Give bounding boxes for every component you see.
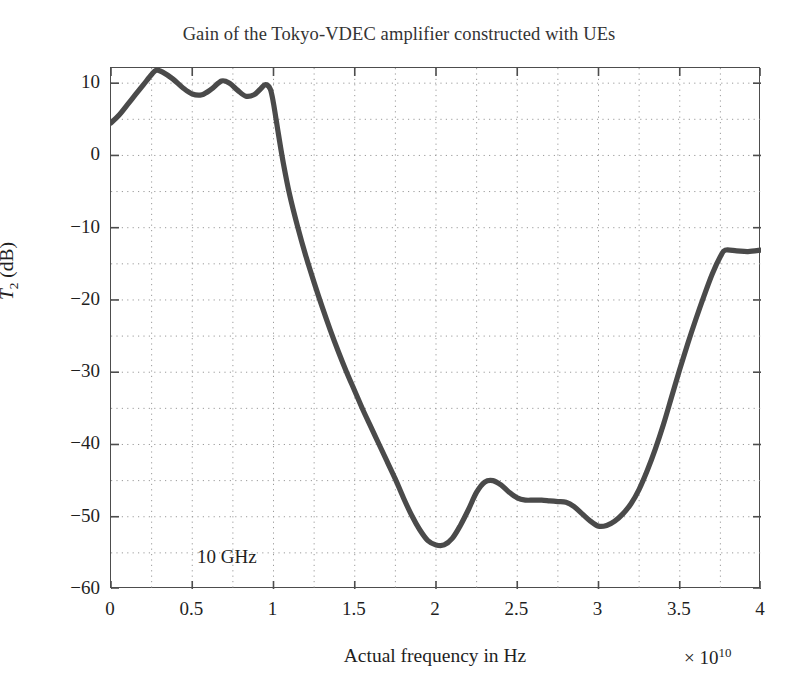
y-axis-label-unit: (dB) — [0, 242, 17, 283]
y-tick-label: 10 — [32, 71, 100, 93]
x-tick-label: 1.5 — [342, 598, 366, 620]
y-tick-label: −30 — [32, 360, 100, 382]
y-tick-label: −60 — [32, 577, 100, 599]
x-axis-exponent: × 1010 — [684, 645, 731, 669]
plot-area — [110, 67, 760, 588]
annotation-10ghz: 10 GHz — [197, 546, 257, 568]
y-tick-label: −50 — [32, 505, 100, 527]
x-tick-label: 2 — [430, 598, 440, 620]
data-series-line — [111, 70, 761, 546]
x-tick-label: 3.5 — [667, 598, 691, 620]
x-tick-label: 0 — [105, 598, 115, 620]
y-axis-label: T2 (dB) — [0, 242, 22, 300]
y-tick-label: −20 — [32, 288, 100, 310]
y-tick-label: −40 — [32, 432, 100, 454]
x-axis-exponent-prefix: × 10 — [684, 647, 718, 668]
y-tick-label: 0 — [32, 143, 100, 165]
x-tick-label: 1 — [268, 598, 278, 620]
x-tick-label: 2.5 — [504, 598, 528, 620]
x-tick-label: 3 — [593, 598, 603, 620]
chart-title: Gain of the Tokyo-VDEC amplifier constru… — [0, 24, 798, 45]
x-axis-exponent-power: 10 — [718, 645, 731, 660]
y-axis-label-subscript: 2 — [6, 283, 21, 290]
chart-figure: Gain of the Tokyo-VDEC amplifier constru… — [0, 0, 798, 694]
x-tick-label: 0.5 — [179, 598, 203, 620]
x-axis-label: Actual frequency in Hz — [110, 645, 760, 667]
y-axis-label-symbol: T — [0, 289, 17, 300]
y-tick-label: −10 — [32, 216, 100, 238]
plot-canvas — [111, 68, 761, 589]
x-tick-label: 4 — [755, 598, 765, 620]
